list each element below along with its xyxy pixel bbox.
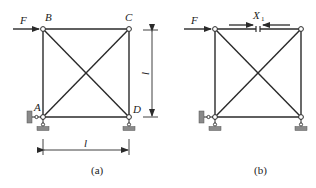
- truss-members-a: [43, 29, 129, 117]
- roller-support-a-icon: [37, 119, 49, 131]
- node-label-a: A: [33, 101, 41, 113]
- node-label-b: B: [45, 11, 52, 23]
- roller-support-d-icon: [123, 119, 135, 131]
- figure-caption-a: (a): [91, 164, 104, 177]
- roller-support-right-icon: [295, 119, 307, 131]
- force-label: F: [190, 14, 198, 26]
- truss-members-b: [215, 29, 301, 117]
- force-label: F: [19, 14, 27, 26]
- redundant-label: X: [252, 9, 261, 21]
- truss-figure-b: F X 1 (b): [184, 9, 307, 177]
- redundant-subscript: 1: [261, 15, 265, 23]
- roller-support-left-icon: [209, 119, 221, 131]
- node-label-d: D: [132, 103, 141, 115]
- horizontal-support-icon: [199, 111, 213, 123]
- dimension-horizontal-label: l: [84, 137, 87, 149]
- figure-caption-b: (b): [254, 164, 267, 177]
- dimension-vertical-label: l: [139, 72, 151, 75]
- cut-mark-icon: [256, 26, 260, 32]
- node-label-c: C: [125, 11, 133, 23]
- truss-figure-a: F B C A D l: [13, 11, 158, 177]
